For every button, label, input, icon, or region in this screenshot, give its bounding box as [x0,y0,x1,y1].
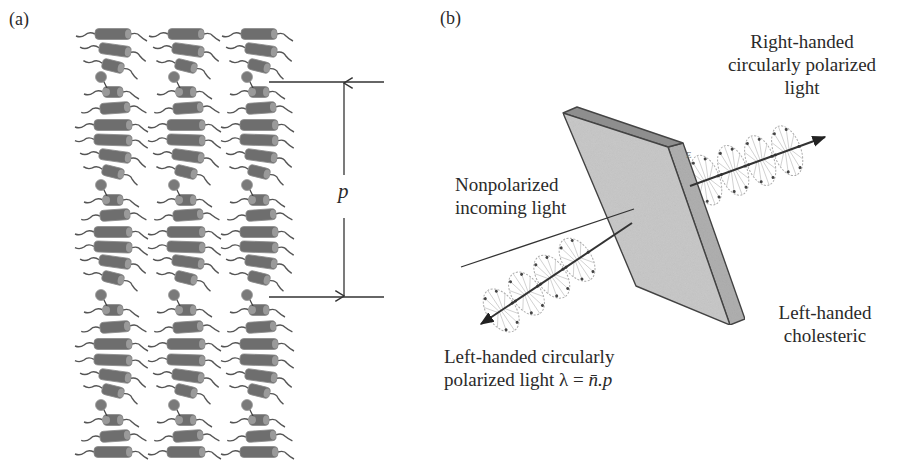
molecule [76,29,147,42]
reflected-ray-arrow [690,137,825,186]
molecule [155,265,213,291]
molecule [227,319,293,336]
molecule [148,339,221,352]
molecule [148,133,221,148]
molecule [225,146,293,168]
molecule [228,159,286,185]
molecule [230,72,285,100]
molecule [221,240,294,255]
reflected-light-line3: light [708,76,896,99]
molecule [230,290,285,318]
molecule [221,227,294,240]
wavelength-formula: n̄.p [588,369,612,390]
pitch-marker [269,82,384,297]
molecule [75,353,148,368]
molecule [157,400,212,428]
molecule [148,227,221,240]
molecule [228,53,286,79]
molecule [152,146,220,168]
molecule [81,428,147,445]
molecule [79,146,147,168]
molecule [222,29,293,42]
reflected-light-line1: Right-handed [708,30,896,53]
transmitted-light-line2-text: polarized light λ = [444,369,588,390]
cholesteric-plate [563,107,745,325]
molecule [221,447,294,460]
molecule [157,180,212,208]
molecule [84,290,139,318]
reflected-light-line2: circularly polarized [708,53,896,76]
molecule [148,447,221,460]
molecule [154,207,220,224]
molecule [79,252,147,274]
molecule [149,29,220,42]
molecule [225,252,293,274]
molecule [228,378,286,404]
molecule [75,339,148,352]
molecule [221,133,294,148]
molecule [81,100,147,117]
molecule [152,366,220,388]
molecule [75,240,148,255]
molecule [228,265,286,291]
molecule [225,40,293,62]
molecule [81,207,147,224]
transmitted-ray-arrow [481,223,632,324]
molecule [152,40,220,62]
molecule [75,447,148,460]
sample-line1: Left-handed [760,301,890,324]
molecule [82,53,140,79]
molecule [148,353,221,368]
molecule [155,159,213,185]
panel-b-label: (b) [440,7,461,30]
molecule [221,120,294,133]
molecule [230,400,285,428]
molecule [157,72,212,100]
transmitted-light-label: Left-handed circularly polarized light λ… [444,345,614,391]
molecule [154,100,220,117]
molecule [152,252,220,274]
electric-field-symbol: E [686,150,692,160]
molecule [148,120,221,133]
pitch-label: p [338,180,349,203]
molecule [84,400,139,428]
molecule [225,366,293,388]
molecule [230,180,285,208]
molecule [157,290,212,318]
molecule [84,72,139,100]
transmitted-light-line1: Left-handed circularly [444,345,614,368]
molecule [84,180,139,208]
molecule [81,319,147,336]
molecule [155,53,213,79]
liquid-crystal-molecule-layers [75,29,294,460]
incoming-light-line2: incoming light [455,196,566,219]
molecule [227,207,293,224]
molecule [154,319,220,336]
sample-label: Left-handed cholesteric [760,301,890,347]
transmitted-light-line2: polarized light λ = n̄.p [444,368,614,391]
panel-a-label: (a) [9,8,29,31]
molecule [227,100,293,117]
molecule [75,133,148,148]
molecule [155,378,213,404]
molecule [82,159,140,185]
molecule [82,265,140,291]
molecule [82,378,140,404]
molecule [227,428,293,445]
molecule [221,339,294,352]
molecule [79,366,147,388]
molecule [79,40,147,62]
molecule [75,227,148,240]
incoming-light-label: Nonpolarized incoming light [455,173,566,219]
molecule [221,353,294,368]
molecule [154,428,220,445]
molecule [148,240,221,255]
sample-line2: cholesteric [760,324,890,347]
molecule [75,120,148,133]
incoming-light-line1: Nonpolarized [455,173,566,196]
reflected-light-label: Right-handed circularly polarized light [708,30,896,99]
